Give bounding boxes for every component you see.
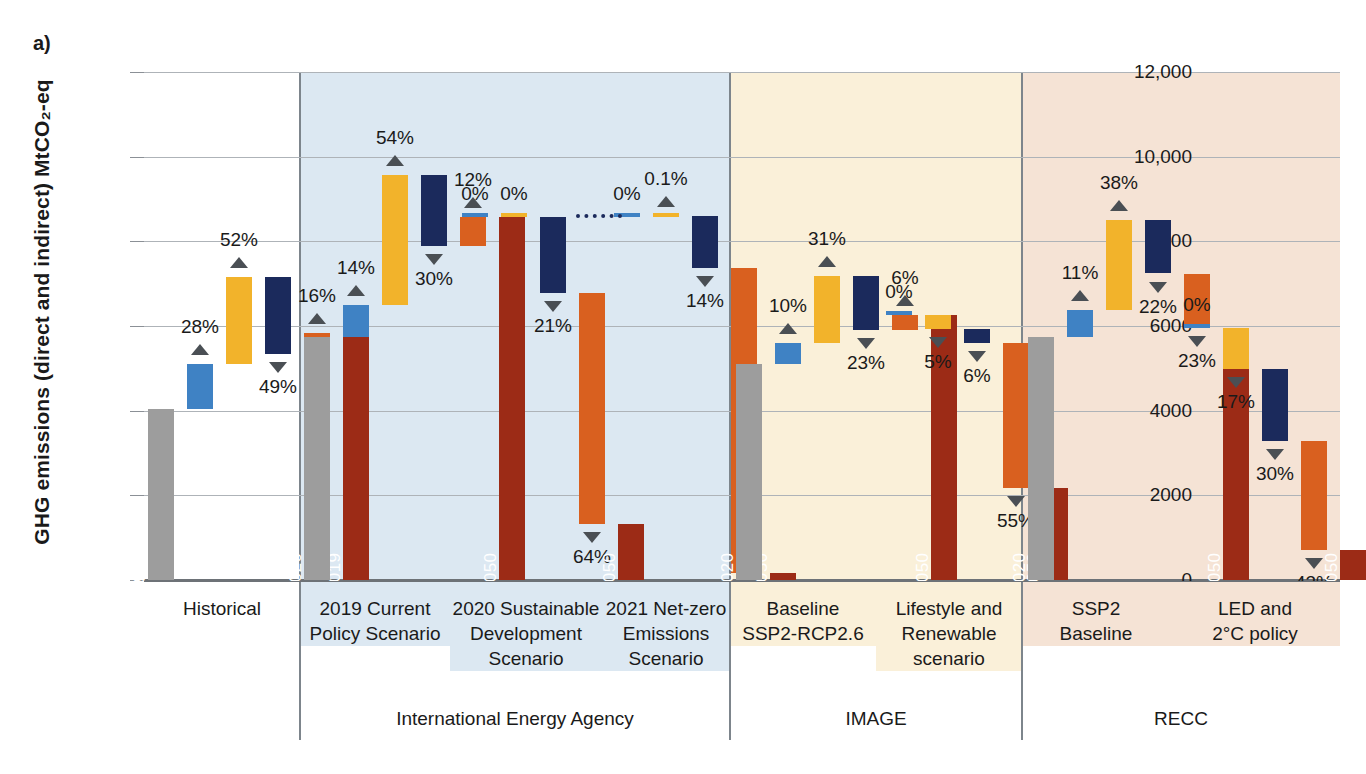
arrow-down-icon xyxy=(425,254,443,265)
arrow-up-icon xyxy=(308,313,326,324)
step-bar-population xyxy=(187,364,213,409)
arrow-up-icon xyxy=(1071,290,1089,301)
step-bar-energy-emission-intensity xyxy=(1301,441,1327,550)
step-bar-affluence xyxy=(1223,328,1249,369)
scenario-label-line: Scenario xyxy=(602,646,730,671)
arrow-down-icon xyxy=(929,337,947,348)
pct-label-material-intensity: 23% xyxy=(847,352,885,374)
start-bar xyxy=(304,337,330,580)
step-bar-affluence xyxy=(382,175,408,305)
step-bar-affluence xyxy=(226,277,252,363)
pct-label-population: 10% xyxy=(769,295,807,317)
arrow-down-icon xyxy=(269,362,287,373)
step-bar-population xyxy=(462,213,488,217)
y-tick-mark xyxy=(130,72,144,73)
pct-label-affluence: 31% xyxy=(808,228,846,250)
y-tick-label: 10,000 xyxy=(1134,146,1192,168)
pct-label-affluence: 5% xyxy=(924,351,951,373)
scenario-label-line: Baseline xyxy=(1022,621,1170,646)
y-tick-mark xyxy=(130,326,144,327)
step-bar-population xyxy=(886,311,912,315)
step-bar-material-intensity xyxy=(265,277,291,353)
pct-label-population: 11% xyxy=(1062,262,1099,284)
pct-label-material-intensity: 14% xyxy=(686,290,724,312)
step-bar-population xyxy=(1067,310,1093,337)
label-separator xyxy=(1021,582,1023,740)
y-axis-title: GHG emissions (direct and indirect) MtCO… xyxy=(30,32,54,592)
arrow-up-icon xyxy=(191,344,209,355)
scenario-label-5: Lifestyle andRenewablescenario xyxy=(876,582,1022,671)
arrow-down-icon xyxy=(1188,336,1206,347)
pct-label-material-intensity: 21% xyxy=(534,315,572,337)
step-bar-affluence xyxy=(814,276,840,342)
scenario-label-line: Policy Scenario xyxy=(300,621,450,646)
y-tick-mark xyxy=(130,241,144,242)
scenario-label-line: SSP2 xyxy=(1022,596,1170,621)
step-bar-material-intensity xyxy=(692,216,718,267)
step-bar-material-intensity xyxy=(1145,220,1171,273)
y-tick-mark xyxy=(130,157,144,158)
pct-label-affluence: 0% xyxy=(500,183,527,205)
arrow-down-icon xyxy=(968,351,986,362)
label-separator xyxy=(729,582,731,740)
step-bar-population xyxy=(1184,324,1210,328)
start-bar xyxy=(1028,337,1054,580)
group-label-0 xyxy=(144,690,300,708)
start-bar xyxy=(736,364,762,580)
scenario-label-7: LED and2°C policy xyxy=(1170,582,1340,646)
scenario-label-line: 2°C policy xyxy=(1170,621,1340,646)
connector-dotted-line xyxy=(576,214,622,218)
pct-label-material-intensity: 30% xyxy=(1256,463,1294,485)
step-bar-energy-emission-intensity xyxy=(892,315,918,329)
scenario-label-line: SSP2-RCP2.6 xyxy=(730,621,876,646)
arrow-down-icon xyxy=(857,338,875,349)
scenario-label-0: Historical xyxy=(144,582,300,621)
scenario-label-line: Emissions xyxy=(602,621,730,646)
arrow-down-icon xyxy=(696,276,714,287)
arrow-up-icon xyxy=(386,155,404,166)
group-label-2: IMAGE xyxy=(730,690,1022,730)
scenario-label-line: scenario xyxy=(876,646,1022,671)
arrow-down-icon xyxy=(1149,282,1167,293)
arrow-down-icon xyxy=(544,301,562,312)
group-label-row: International Energy AgencyIMAGERECC xyxy=(144,690,1340,750)
step-bar-material-intensity xyxy=(964,329,990,344)
arrow-up-icon xyxy=(818,256,836,267)
step-bar-affluence xyxy=(501,213,527,217)
pct-label-population: 28% xyxy=(181,316,219,338)
step-bar-affluence xyxy=(653,213,679,217)
group-label-1: International Energy Agency xyxy=(300,690,730,730)
y-tick-mark xyxy=(130,495,144,496)
end-bar xyxy=(770,573,796,580)
pct-label-population: 0% xyxy=(613,183,640,205)
arrow-up-icon xyxy=(230,257,248,268)
scenario-label-line: LED and xyxy=(1170,596,1340,621)
scenario-label-1: 2019 CurrentPolicy Scenario xyxy=(300,582,450,646)
pct-label-affluence: 0.1% xyxy=(644,168,687,190)
arrow-down-icon xyxy=(1007,496,1025,507)
y-tick-label: 12,000 xyxy=(1134,61,1192,83)
step-bar-material-intensity xyxy=(421,175,447,246)
pct-label-population: 14% xyxy=(337,257,375,279)
end-bar xyxy=(618,524,644,580)
pct-label-population: 0% xyxy=(461,183,488,205)
step-bar-population xyxy=(775,343,801,364)
pct-label-material-intensity: 6% xyxy=(963,365,990,387)
pct-label-energy-emission-intensity: 23% xyxy=(1178,350,1216,372)
end-bar xyxy=(343,333,369,580)
scenario-label-4: BaselineSSP2-RCP2.6 xyxy=(730,582,876,646)
step-bar-energy-emission-intensity xyxy=(460,217,486,247)
step-bar-energy-emission-intensity xyxy=(1003,343,1029,487)
step-bar-affluence xyxy=(925,315,951,328)
pct-label-energy-emission-intensity: 16% xyxy=(298,285,336,307)
step-bar-affluence xyxy=(1106,220,1132,310)
y-tick-label: 2000 xyxy=(1150,484,1192,506)
scenario-label-2: 2020 SustainableDevelopmentScenario xyxy=(450,582,602,671)
scenario-label-line: 2019 Current xyxy=(300,596,450,621)
arrow-down-icon xyxy=(583,532,601,543)
scenario-label-line: 2020 Sustainable xyxy=(450,596,602,621)
y-tick-label: 4000 xyxy=(1150,400,1192,422)
step-bar-population xyxy=(343,305,369,337)
step-bar-material-intensity xyxy=(540,217,566,293)
